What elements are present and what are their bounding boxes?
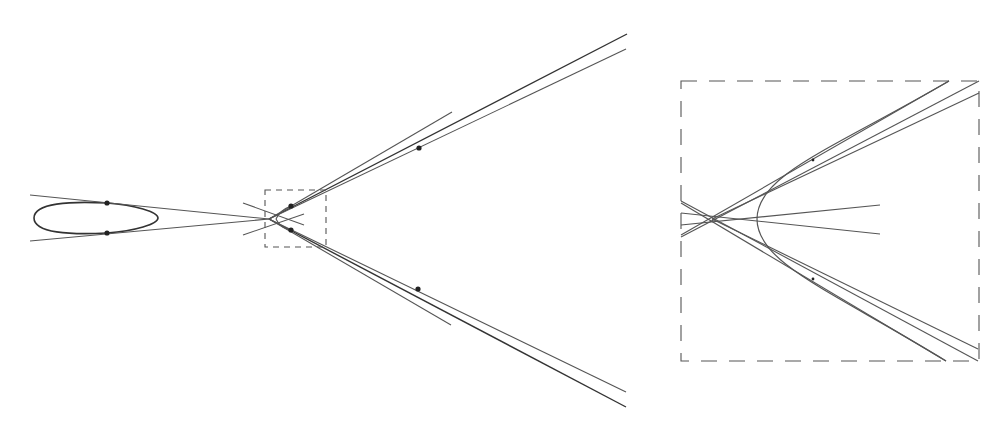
enlarged-lower-ray-2 <box>681 201 978 361</box>
ellipse-curve <box>34 202 158 233</box>
outer-point-upper <box>416 145 421 150</box>
geometry-figure <box>0 0 1006 430</box>
lower-ray-second <box>269 219 626 392</box>
enlarged-short-ray-upper <box>681 205 880 225</box>
enlarged-point-lower <box>812 278 815 281</box>
upper-ray-main <box>269 34 627 219</box>
ellipse-tangent-lower <box>30 219 269 241</box>
enlarged-upper-ray-3 <box>712 93 979 219</box>
upper-ray-second <box>269 49 626 219</box>
enlarged-short-ray-lower <box>681 213 880 234</box>
upper-ray-short <box>269 112 452 219</box>
left-panel <box>30 34 627 407</box>
hyperbola-branch <box>757 81 949 361</box>
zoom-region-box <box>265 190 326 247</box>
enlarged-point-upper <box>812 159 815 162</box>
ellipse-point-upper <box>104 200 109 205</box>
enlarged-lower-ray-3 <box>712 219 978 349</box>
inner-point-lower <box>288 227 293 232</box>
right-panel-enlarged <box>681 81 979 361</box>
inner-point-upper <box>288 203 293 208</box>
outer-point-lower <box>415 286 420 291</box>
lower-ray-short <box>269 219 451 325</box>
ellipse-tangent-upper <box>30 195 269 219</box>
ellipse-point-lower <box>104 230 109 235</box>
enlarged-upper-ray-2 <box>681 81 979 237</box>
